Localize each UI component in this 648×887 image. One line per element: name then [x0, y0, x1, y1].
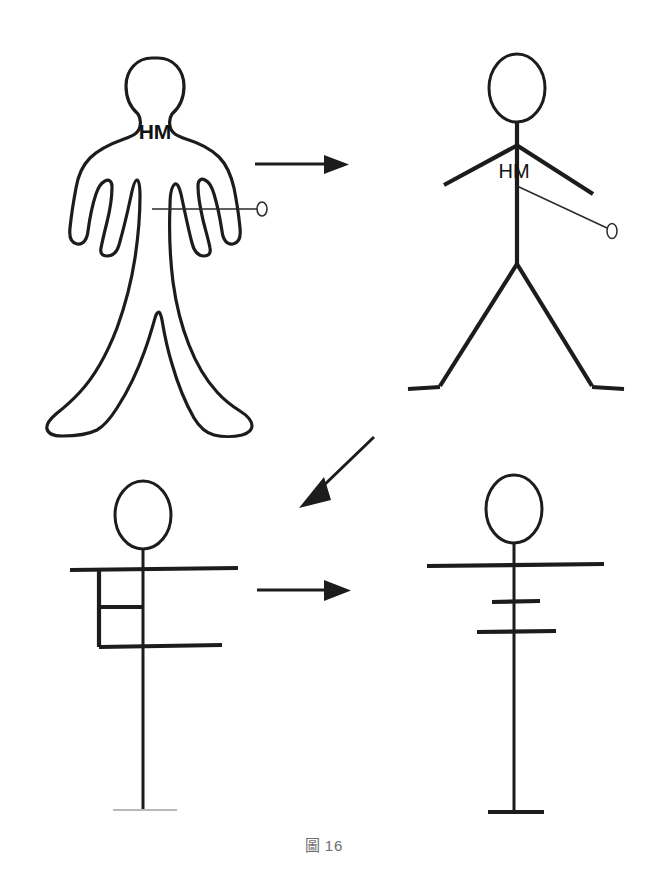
panel-3-hip-bar — [99, 645, 222, 647]
body-outline-path — [47, 58, 252, 437]
panel-2-right-leg — [517, 264, 592, 386]
arrow-2-shaft — [320, 437, 374, 489]
arrow-1-head — [324, 155, 349, 174]
panel-2-stick-figure: HM — [408, 54, 624, 389]
panel-2-left-leg — [440, 264, 517, 386]
panel-4-lower-crossbar — [477, 631, 556, 632]
figure-caption: 圖16 — [0, 836, 648, 856]
panel-2-pointer-endpoint-ellipse — [607, 224, 617, 239]
panel-2-right-foot — [592, 387, 624, 389]
arrow-panel2-to-panel3 — [299, 437, 374, 508]
arrow-panel1-to-panel2 — [255, 155, 349, 174]
panel-3-shoulder-bar — [70, 568, 238, 570]
panel-3-head — [115, 481, 171, 549]
panel-2-head — [489, 54, 545, 122]
panel-3-stick-figure-box-torso — [70, 481, 238, 810]
panel-2-left-foot — [408, 387, 440, 389]
panel-1-hm-label: HM — [139, 120, 172, 143]
panel-4-stick-figure-simplified — [427, 475, 604, 812]
figure-caption-number: 16 — [325, 837, 344, 854]
panel-4-upper-crossbar — [492, 601, 540, 602]
panel-4-shoulder-bar — [427, 564, 604, 566]
figure-diagram: HM HM — [0, 0, 648, 887]
panel-2-hm-label: HM — [498, 160, 529, 182]
panel-1-pointer-endpoint-ellipse — [257, 202, 267, 216]
arrow-3-head — [324, 580, 351, 601]
arrow-panel3-to-panel4 — [257, 580, 351, 601]
panel-4-head — [486, 475, 542, 543]
diagram-canvas: HM HM — [0, 0, 648, 887]
figure-caption-label: 圖 — [305, 837, 321, 854]
panel-1-human-silhouette: HM — [47, 58, 267, 437]
